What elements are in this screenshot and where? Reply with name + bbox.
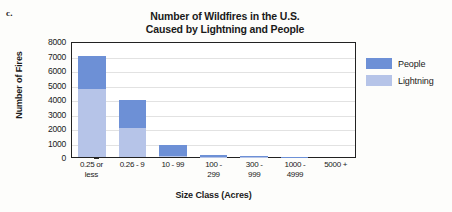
x-tick-label: 0.25 orless (71, 160, 112, 180)
figure-container: c. Number of Wildfires in the U.S. Cause… (0, 0, 452, 212)
plot-area (71, 42, 356, 158)
bar-segment-people[interactable] (159, 145, 186, 155)
y-tick-label: 6000 (28, 67, 66, 76)
y-tick-label: 7000 (28, 52, 66, 61)
bar-stack[interactable] (240, 156, 267, 157)
legend-swatch-icon (366, 75, 392, 86)
bar-stack[interactable] (119, 100, 146, 157)
bar-stack[interactable] (200, 155, 227, 157)
bar-slot (234, 43, 274, 157)
bar-series-group (72, 43, 355, 157)
bar-segment-lightning[interactable] (119, 128, 146, 157)
chart-title-line-2: Caused by Lightning and People (95, 23, 355, 36)
legend-label: People (398, 59, 425, 69)
bar-slot (112, 43, 152, 157)
legend-swatch-icon (366, 58, 392, 69)
x-axis-title: Size Class (Acres) (71, 190, 356, 200)
legend-item-people[interactable]: People (366, 55, 434, 72)
legend-label: Lightning (398, 76, 434, 86)
x-tick-label: 300 -999 (234, 160, 275, 180)
bar-slot (72, 43, 112, 157)
x-tick-label: 0.26 - 9 (112, 160, 153, 180)
bar-stack[interactable] (159, 145, 186, 157)
bar-slot (274, 43, 314, 157)
figure-label: c. (6, 8, 13, 18)
y-tick-label: 4000 (28, 96, 66, 105)
y-tick-label: 5000 (28, 81, 66, 90)
y-tick-label: 8000 (28, 38, 66, 47)
bar-slot (193, 43, 233, 157)
y-axis-title: Number of Fires (14, 45, 24, 125)
y-tick-label: 2000 (28, 125, 66, 134)
y-tick-mark (94, 158, 99, 159)
chart-legend: PeopleLightning (366, 55, 434, 89)
bar-slot (153, 43, 193, 157)
y-axis-tick-labels: 010002000300040005000600070008000 (28, 38, 66, 162)
bar-stack[interactable] (78, 56, 105, 157)
x-tick-label: 100 -299 (193, 160, 234, 180)
bar-segment-lightning[interactable] (78, 89, 105, 157)
chart-title-line-1: Number of Wildfires in the U.S. (95, 10, 355, 23)
legend-item-lightning[interactable]: Lightning (366, 72, 434, 89)
y-tick-label: 3000 (28, 110, 66, 119)
x-tick-label: 1000 -4999 (275, 160, 316, 180)
x-tick-label: 10 - 99 (152, 160, 193, 180)
bar-slot (315, 43, 355, 157)
bar-segment-people[interactable] (119, 100, 146, 128)
bar-segment-lightning[interactable] (159, 156, 186, 157)
x-tick-label: 5000 + (315, 160, 356, 180)
bar-segment-people[interactable] (78, 56, 105, 89)
y-tick-label: 1000 (28, 139, 66, 148)
x-axis-tick-labels: 0.25 orless0.26 - 9 10 - 99 100 -299300 … (71, 160, 356, 180)
y-tick-label: 0 (28, 154, 66, 163)
chart-title: Number of Wildfires in the U.S. Caused b… (95, 10, 355, 36)
